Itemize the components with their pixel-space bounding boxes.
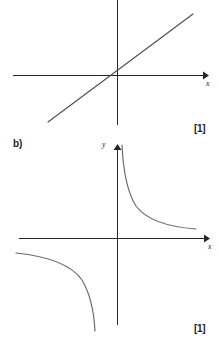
worksheet-page: x x y b) [1] [1] [0, 0, 219, 352]
graph-b-branch-q3 [16, 253, 95, 331]
graph-a-x-axis-label: x [206, 80, 210, 88]
graph-b-branch-q1 [122, 145, 196, 229]
part-label-b: b) [13, 139, 22, 149]
graph-b-x-axis-label: x [208, 243, 212, 251]
graph-canvas [0, 0, 219, 352]
graph-a-line-plot [48, 14, 193, 122]
marks-badge-part-a: [1] [194, 124, 205, 134]
graph-b-y-axis-label: y [102, 141, 106, 149]
marks-badge-part-b: [1] [194, 324, 205, 334]
graph-a-group [13, 0, 209, 125]
graph-b-y-axis-arrow [114, 144, 122, 150]
graph-b-group [16, 144, 210, 331]
